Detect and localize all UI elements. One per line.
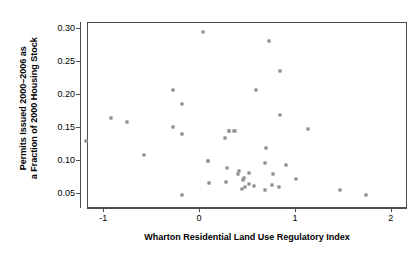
data-point: [85, 140, 88, 143]
data-point: [264, 162, 267, 165]
data-point: [180, 133, 183, 136]
data-point: [224, 137, 227, 140]
data-point: [338, 188, 341, 191]
y-tick: [76, 94, 80, 95]
data-point: [254, 89, 257, 92]
plot-area: [87, 22, 407, 208]
y-tick: [76, 61, 80, 62]
data-point: [241, 187, 244, 190]
x-axis-title: Wharton Residential Land Use Regulatory …: [87, 233, 407, 243]
data-point: [237, 173, 240, 176]
scatter-plot-figure: 0.050.100.150.200.250.30 -1012 Wharton R…: [0, 0, 414, 258]
y-tick-label: 0.05: [57, 189, 75, 198]
data-point: [268, 40, 271, 43]
data-point: [224, 180, 227, 183]
data-point: [307, 128, 310, 131]
data-point: [109, 116, 112, 119]
data-point: [126, 120, 129, 123]
y-tick-label: 0.25: [57, 57, 75, 66]
data-point: [294, 177, 297, 180]
data-point: [271, 173, 274, 176]
data-point: [180, 103, 183, 106]
y-tick: [76, 127, 80, 128]
y-axis-title-line2: a Fraction of 2000 Housing Stock: [29, 13, 40, 203]
x-axis: -1012: [87, 208, 407, 209]
data-point: [264, 188, 267, 191]
data-point: [206, 160, 209, 163]
data-point: [227, 130, 230, 133]
data-point: [270, 183, 273, 186]
data-point: [247, 182, 250, 185]
data-point: [172, 89, 175, 92]
x-tick: [199, 208, 200, 212]
y-axis-title: Permits Issued 2000–2006 as a Fraction o…: [18, 13, 41, 203]
y-tick-label: 0.10: [57, 156, 75, 165]
x-tick-label: -1: [99, 214, 107, 223]
data-point: [201, 31, 204, 34]
data-point: [225, 167, 228, 170]
y-tick-label: 0.20: [57, 90, 75, 99]
data-point: [278, 113, 281, 116]
x-tick-label: 0: [197, 214, 202, 223]
data-point: [285, 164, 288, 167]
y-axis-title-line1: Permits Issued 2000–2006 as: [18, 13, 29, 203]
y-tick-label: 0.15: [57, 123, 75, 132]
data-point: [180, 194, 183, 197]
data-point: [172, 126, 175, 129]
data-point: [232, 130, 235, 133]
x-tick-label: 2: [388, 214, 393, 223]
x-tick: [295, 208, 296, 212]
y-tick: [76, 28, 80, 29]
data-point: [242, 178, 245, 181]
y-tick: [76, 160, 80, 161]
data-point: [142, 153, 145, 156]
data-point: [278, 70, 281, 73]
x-tick: [103, 208, 104, 212]
x-tick-label: 1: [292, 214, 297, 223]
data-point: [244, 185, 247, 188]
y-tick: [76, 193, 80, 194]
data-point: [277, 185, 280, 188]
data-point: [207, 181, 210, 184]
data-point: [252, 184, 255, 187]
data-point: [364, 194, 367, 197]
y-tick-label: 0.30: [57, 24, 75, 33]
y-axis: 0.050.100.150.200.250.30: [80, 22, 81, 208]
data-point: [247, 172, 250, 175]
data-point: [265, 146, 268, 149]
x-tick: [391, 208, 392, 212]
